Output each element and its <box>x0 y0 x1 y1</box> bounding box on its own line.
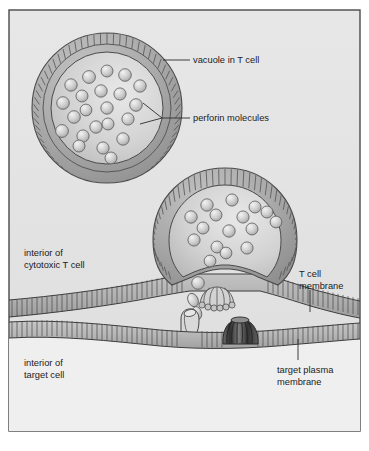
illustration-panel: vacuole in T cell perforin molecules int… <box>9 10 360 431</box>
label-t-cell-membrane-line1: T cell <box>299 269 321 279</box>
perforin-molecule <box>270 216 282 228</box>
perforin-molecule <box>197 222 209 234</box>
label-interior-of-cytotoxic-t-cell-line1: interior of <box>24 248 63 258</box>
upper-vacuole <box>32 33 182 183</box>
perforin-molecule <box>117 133 129 145</box>
perforin-molecule <box>226 194 238 206</box>
perforin-molecule <box>105 152 117 164</box>
label-interior-of-target-cell-line1: interior of <box>24 358 63 368</box>
perforin-molecule <box>65 79 77 91</box>
perforin-molecule <box>246 223 258 235</box>
label-target-plasma-membrane-line1: target plasma <box>277 365 334 375</box>
label-interior-of-cytotoxic-t-cell-line2: cytotoxic T cell <box>24 260 85 270</box>
label-perforin-molecules: perforin molecules <box>193 113 269 123</box>
perforin-molecule <box>80 104 92 116</box>
perforin-molecule <box>204 255 216 267</box>
perforin-molecule <box>114 88 126 100</box>
perforin-molecule <box>210 209 222 221</box>
perforin-molecule <box>119 69 132 82</box>
perforin-molecule <box>201 199 213 211</box>
cell-diagram-illustration: vacuole in T cell perforin molecules int… <box>0 0 369 451</box>
perforin-molecule <box>97 142 109 154</box>
perforin-molecule <box>73 140 85 152</box>
released-perforin-molecule <box>192 277 205 290</box>
perforin-molecule <box>68 111 81 124</box>
perforin-molecule <box>223 225 235 237</box>
perforin-molecule <box>76 90 88 102</box>
label-interior-of-target-cell-line2: target cell <box>24 370 64 380</box>
perforin-molecule <box>237 211 249 223</box>
perforin-molecule <box>185 211 197 223</box>
perforin-molecule <box>220 247 232 259</box>
label-t-cell-membrane-line2: membrane <box>299 281 343 291</box>
perforin-molecule <box>249 201 261 213</box>
label-vacuole-in-t-cell: vacuole in T cell <box>193 55 259 65</box>
perforin-molecule <box>101 102 113 114</box>
perforin-molecule <box>188 234 200 246</box>
perforin-molecule <box>134 80 146 92</box>
perforin-molecule <box>102 118 114 130</box>
perforin-molecule <box>57 97 70 110</box>
figure-root: vacuole in T cell perforin molecules int… <box>0 0 369 451</box>
transmembrane-pore-mouth <box>231 317 249 323</box>
perforin-molecule <box>56 125 69 138</box>
label-target-plasma-membrane-line2: membrane <box>277 377 321 387</box>
perforin-molecule <box>83 71 96 84</box>
perforin-molecule <box>95 85 107 97</box>
perforin-molecule <box>241 242 253 254</box>
perforin-molecule <box>101 65 113 77</box>
perforin-molecule <box>122 113 134 125</box>
perforin-molecule <box>90 121 102 133</box>
perforin-molecule <box>261 206 273 218</box>
perforin-molecule <box>130 99 143 112</box>
